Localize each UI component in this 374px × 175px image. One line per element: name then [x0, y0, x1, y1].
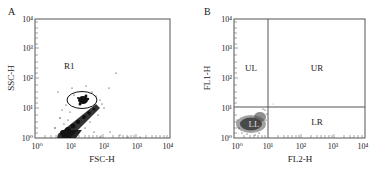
y-minor-ticks-a — [35, 22, 39, 133]
svg-text:10³: 10³ — [222, 44, 233, 53]
svg-text:10³: 10³ — [132, 142, 143, 151]
svg-text:10¹: 10¹ — [23, 104, 34, 113]
svg-text:10²: 10² — [296, 142, 307, 151]
y-tick-labels-a: 10⁰ 10¹ 10² 10³ 10⁴ — [22, 15, 34, 143]
svg-text:10⁰: 10⁰ — [31, 142, 42, 151]
quadrant-labels: UL UR LL LR — [245, 63, 323, 129]
gate-r1-label: R1 — [64, 61, 75, 71]
y-minor-ticks-b — [234, 22, 238, 133]
quadrant-ul-label: UL — [245, 63, 257, 73]
svg-text:10²: 10² — [222, 74, 233, 83]
svg-text:10⁴: 10⁴ — [358, 142, 369, 151]
y-axis-title-a: SSC-H — [6, 65, 16, 91]
svg-text:10⁰: 10⁰ — [221, 134, 232, 143]
svg-text:10⁴: 10⁴ — [163, 142, 174, 151]
x-axis-title-a: FSC-H — [89, 154, 115, 164]
svg-text:10¹: 10¹ — [66, 142, 77, 151]
svg-text:10¹: 10¹ — [263, 142, 274, 151]
panel-a: A 10⁰ 10¹ 10² 10³ 10⁴ 10⁰ 10¹ 10² 10³ 10… — [0, 0, 187, 175]
y-axis-title-b: FL1-H — [202, 65, 212, 90]
svg-text:10²: 10² — [99, 142, 110, 151]
y-tick-labels-b: 10⁰ 10¹ 10² 10³ 10⁴ — [221, 15, 233, 143]
svg-text:10²: 10² — [23, 74, 34, 83]
event-cloud-a — [54, 72, 140, 138]
quadrant-lr-label: LR — [311, 117, 323, 127]
scatter-plot-b: B 10⁰ 10¹ 10² 10³ 10⁴ 10⁰ 10¹ 10² 10³ 10… — [187, 0, 374, 175]
x-tick-labels-b: 10⁰ 10¹ 10² 10³ 10⁴ — [231, 142, 368, 151]
svg-text:10⁴: 10⁴ — [22, 15, 33, 24]
scatter-plot-a: A 10⁰ 10¹ 10² 10³ 10⁴ 10⁰ 10¹ 10² 10³ 10… — [0, 0, 187, 175]
x-axis-title-b: FL2-H — [288, 154, 313, 164]
panel-letter-b: B — [204, 6, 211, 17]
quadrant-ll-label: LL — [249, 119, 260, 129]
svg-text:10³: 10³ — [328, 142, 339, 151]
x-tick-labels-a: 10⁰ 10¹ 10² 10³ 10⁴ — [31, 142, 173, 151]
panel-b: B 10⁰ 10¹ 10² 10³ 10⁴ 10⁰ 10¹ 10² 10³ 10… — [187, 0, 374, 175]
svg-text:10¹: 10¹ — [222, 104, 233, 113]
plot-frame-a — [35, 19, 170, 138]
quadrant-ur-label: UR — [311, 63, 324, 73]
svg-text:10³: 10³ — [23, 44, 34, 53]
svg-text:10⁴: 10⁴ — [221, 15, 232, 24]
svg-text:10⁰: 10⁰ — [231, 142, 242, 151]
panel-letter-a: A — [8, 6, 16, 17]
x-minor-ticks-b — [244, 134, 362, 138]
